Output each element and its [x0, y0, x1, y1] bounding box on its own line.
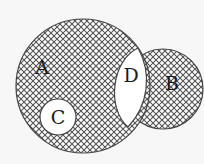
label-b: B: [165, 72, 179, 94]
label-d: D: [123, 64, 138, 86]
label-c: C: [51, 106, 66, 128]
venn-diagram: A B C D: [0, 0, 204, 164]
label-a: A: [34, 56, 49, 78]
